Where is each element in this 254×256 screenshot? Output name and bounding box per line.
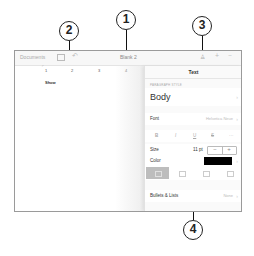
more-format-button[interactable]: ··· (229, 133, 234, 138)
font-label: Font (150, 116, 159, 121)
chevron-right-icon: › (236, 116, 238, 122)
align-left-icon (155, 171, 162, 177)
size-stepper[interactable]: − + (207, 146, 237, 155)
undo-icon[interactable]: ↶ (72, 52, 78, 60)
tab-stop-icon[interactable]: ⌐ (42, 65, 44, 68)
document-text[interactable]: Show (45, 80, 56, 85)
paragraph-style-value: Body (150, 92, 171, 102)
paragraph-style-label: PARAGRAPH STYLE (150, 83, 182, 87)
callout-3: 3 (192, 16, 212, 36)
align-right-icon (203, 171, 210, 177)
panel-title: Text (145, 69, 242, 75)
font-value: Helvetica Neue (206, 116, 233, 121)
documents-button[interactable]: Documents (20, 54, 45, 60)
callout-number: 1 (123, 12, 130, 26)
paragraph-style-selector[interactable]: Body › (145, 88, 242, 106)
font-row[interactable]: Font Helvetica Neue › (145, 113, 242, 125)
align-center-button[interactable] (170, 167, 193, 179)
ruler-mark: 3 (98, 68, 100, 73)
callout-line-1 (126, 30, 127, 51)
bold-button[interactable]: B (155, 133, 158, 138)
chevron-right-icon: › (236, 158, 238, 164)
toolbar: Documents ↶ Blank 2 ♙ + ··· (15, 51, 241, 66)
bullets-lists-value: None (223, 193, 233, 198)
align-justify-icon (227, 171, 234, 177)
format-brush-icon[interactable]: ♙ (200, 53, 205, 60)
strikethrough-button[interactable]: S (211, 133, 214, 138)
callout-number: 2 (66, 23, 73, 37)
chevron-right-icon: › (236, 94, 238, 100)
ruler-mark: 1 (45, 68, 47, 73)
underline-button[interactable]: U (193, 133, 196, 138)
callout-number: 3 (199, 18, 206, 32)
align-justify-button[interactable] (218, 167, 241, 179)
increase-size-button[interactable]: + (222, 146, 236, 152)
chevron-right-icon: › (236, 193, 238, 199)
size-value: 11 pt (193, 147, 203, 152)
callout-4: 4 (183, 220, 203, 240)
decrease-size-button[interactable]: − (208, 146, 222, 152)
divider (145, 78, 242, 79)
align-center-icon (179, 171, 186, 177)
callout-number: 4 (190, 222, 197, 236)
ruler-mark: 2 (71, 68, 73, 73)
color-swatch[interactable] (204, 157, 232, 165)
app-window: Documents ↶ Blank 2 ♙ + ··· ⌐ 1 2 3 4 Sh… (14, 50, 242, 212)
bullets-lists-row[interactable]: Bullets & Lists None › (145, 190, 242, 202)
text-format-buttons: B I U S ··· (145, 130, 242, 142)
document-shade (115, 66, 145, 211)
add-icon[interactable]: + (215, 52, 219, 59)
color-label: Color (150, 158, 161, 163)
size-label: Size (150, 147, 159, 152)
callout-2: 2 (59, 21, 79, 41)
alignment-buttons (145, 166, 242, 180)
format-panel: Text PARAGRAPH STYLE Body › Font Helveti… (144, 66, 242, 211)
more-icon[interactable]: ··· (228, 52, 231, 58)
align-right-button[interactable] (194, 167, 217, 179)
callout-1: 1 (116, 10, 136, 30)
align-left-button[interactable] (146, 167, 169, 179)
bullets-lists-label: Bullets & Lists (150, 193, 178, 198)
sidebar-icon[interactable] (57, 54, 65, 61)
document-title[interactable]: Blank 2 (120, 54, 137, 60)
italic-button[interactable]: I (175, 133, 176, 138)
